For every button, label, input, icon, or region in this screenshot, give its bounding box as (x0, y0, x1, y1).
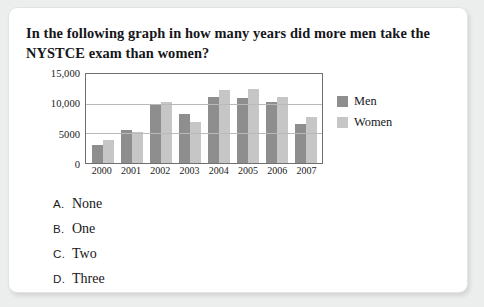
bar-group (291, 74, 320, 163)
legend-label-men: Men (354, 94, 377, 109)
x-axis-tick-label: 2000 (87, 165, 116, 176)
bar-women (248, 89, 259, 163)
x-axis-tick-label: 2004 (204, 165, 233, 176)
answer-option-text: One (72, 221, 95, 237)
answer-option[interactable]: B.One (53, 221, 105, 237)
x-axis-tick-label: 2002 (146, 165, 175, 176)
bar-men (92, 145, 103, 163)
y-axis-tick-label: 0 (75, 159, 80, 170)
bar-group (146, 74, 175, 163)
question-text: In the following graph in how many years… (26, 23, 436, 63)
bar-men (121, 130, 132, 163)
answer-options: A.NoneB.OneC.TwoD.Three (53, 196, 105, 293)
answer-option-text: None (72, 196, 102, 212)
answer-option-letter: B. (53, 222, 72, 235)
answer-option[interactable]: A.None (53, 196, 105, 212)
bar-group (262, 74, 291, 163)
y-axis-tick-label: 10,000 (51, 98, 80, 109)
question-card: In the following graph in how many years… (8, 7, 468, 293)
bar-men (208, 97, 219, 163)
bar-women (190, 122, 201, 163)
gridline (86, 133, 322, 134)
y-axis: 0500010,00015,000 (27, 68, 83, 164)
x-axis-tick-label: 2001 (116, 165, 145, 176)
answer-option[interactable]: D.Three (53, 271, 105, 287)
bar-men (237, 98, 248, 163)
bar-group (117, 74, 146, 163)
answer-option-letter: C. (53, 247, 72, 260)
bar-group (88, 74, 117, 163)
bar-women (132, 132, 143, 163)
bar-women (306, 117, 317, 163)
bar-chart: 0500010,00015,000 2000200120022003200420… (27, 68, 447, 190)
legend-label-women: Women (354, 115, 392, 130)
legend-swatch-women-icon (337, 117, 348, 128)
answer-option[interactable]: C.Two (53, 246, 105, 262)
bar-women (103, 140, 114, 163)
x-axis: 20002001200220032004200520062007 (85, 165, 323, 176)
x-axis-tick-label: 2005 (233, 165, 262, 176)
bar-women (277, 97, 288, 163)
x-axis-tick-label: 2006 (263, 165, 292, 176)
bar-group (233, 74, 262, 163)
legend-item-women: Women (337, 115, 437, 130)
answer-option-letter: D. (53, 272, 72, 285)
bar-men (179, 114, 190, 163)
x-axis-tick-label: 2007 (292, 165, 321, 176)
y-axis-tick-label: 5000 (59, 128, 80, 139)
bar-group (175, 74, 204, 163)
plot-area (85, 73, 323, 164)
y-axis-tick-label: 15,000 (51, 68, 80, 79)
x-axis-tick-label: 2003 (175, 165, 204, 176)
bar-group (204, 74, 233, 163)
bar-women (219, 90, 230, 163)
answer-option-text: Two (72, 246, 97, 262)
chart-legend: Men Women (337, 94, 437, 136)
bar-groups (86, 74, 322, 163)
legend-swatch-men-icon (337, 96, 348, 107)
gridline (86, 104, 322, 105)
legend-item-men: Men (337, 94, 437, 109)
answer-option-text: Three (72, 271, 105, 287)
answer-option-letter: A. (53, 197, 72, 210)
bar-men (295, 124, 306, 163)
